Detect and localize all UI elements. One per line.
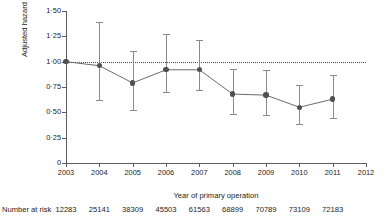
x-tick <box>66 163 67 167</box>
y-axis-title: Adjusted hazard ratio (%) <box>20 0 29 57</box>
x-axis-title: Year of primary operation <box>66 191 366 200</box>
x-tick <box>266 163 267 167</box>
x-tick <box>199 163 200 167</box>
x-tick <box>166 163 167 167</box>
error-bar-cap <box>96 22 103 23</box>
error-bar-cap <box>296 85 303 86</box>
plot-area: 1·501·251·000·750·500·250 20032004200520… <box>66 11 366 163</box>
y-tick-label: 0·50 <box>21 108 61 115</box>
y-tick-label: 0·75 <box>21 83 61 90</box>
error-bar-cap <box>330 75 337 76</box>
error-bar-cap <box>196 40 203 41</box>
error-bar-cap <box>230 69 237 70</box>
error-bar-whisker <box>199 40 200 90</box>
error-bar-cap <box>196 90 203 91</box>
error-bar-whisker <box>99 22 100 100</box>
error-bar-cap <box>263 115 270 116</box>
error-bar-cap <box>230 114 237 115</box>
error-bar-cap <box>263 70 270 71</box>
data-point-marker <box>297 105 302 110</box>
x-tick <box>333 163 334 167</box>
y-tick-label: 0 <box>21 159 61 166</box>
data-point-marker <box>63 59 68 64</box>
error-bar-cap <box>130 110 137 111</box>
x-tick <box>233 163 234 167</box>
number-at-risk-value: 72183 <box>311 205 355 214</box>
series-line <box>66 11 366 163</box>
error-bar-cap <box>96 100 103 101</box>
error-bar-whisker <box>166 34 167 92</box>
error-bar-cap <box>296 124 303 125</box>
x-tick-label: 2012 <box>346 169 386 176</box>
error-bar-cap <box>163 92 170 93</box>
error-bar-cap <box>130 51 137 52</box>
x-tick <box>366 163 367 167</box>
error-bar-cap <box>330 118 337 119</box>
error-bar-cap <box>163 34 170 35</box>
data-point-marker <box>130 80 135 85</box>
y-tick-label: 0·25 <box>21 134 61 141</box>
x-tick <box>99 163 100 167</box>
x-tick <box>133 163 134 167</box>
data-point-marker <box>263 92 268 97</box>
x-tick <box>299 163 300 167</box>
x-axis-line <box>66 163 366 164</box>
hazard-ratio-figure: 1·501·251·000·750·500·250 20032004200520… <box>0 0 386 220</box>
y-tick-label: 1·00 <box>21 58 61 65</box>
